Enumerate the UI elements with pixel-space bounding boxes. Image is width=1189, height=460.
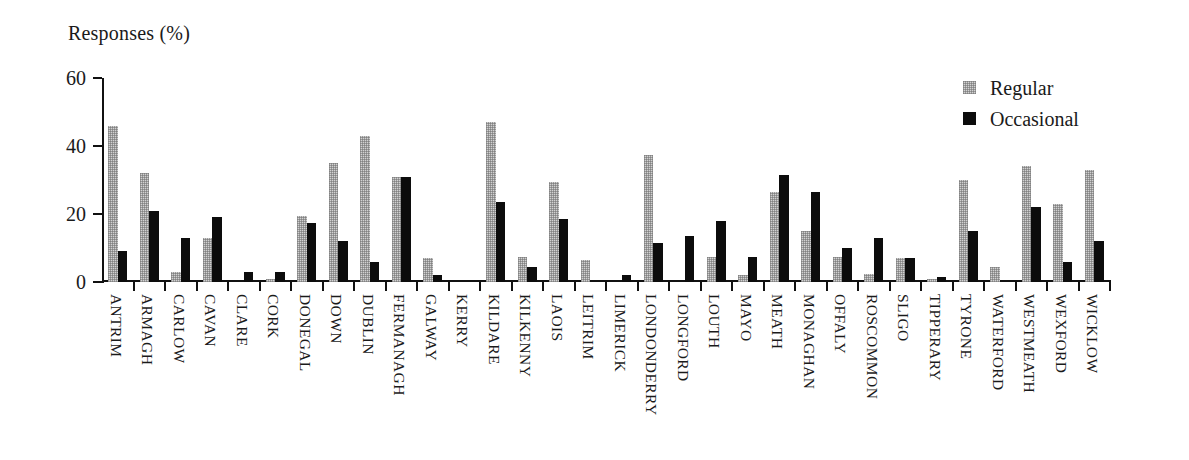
bar-regular[interactable] bbox=[423, 258, 433, 282]
x-axis-label: LOUTH bbox=[707, 294, 723, 349]
bar-occasional[interactable] bbox=[874, 238, 884, 282]
bar-group bbox=[921, 78, 953, 282]
bar-occasional[interactable] bbox=[937, 277, 947, 282]
x-tick bbox=[353, 282, 355, 291]
bar-regular[interactable] bbox=[864, 274, 874, 283]
bar-regular[interactable] bbox=[896, 258, 906, 282]
x-axis-label: WESTMEATH bbox=[1022, 294, 1038, 393]
bar-occasional[interactable] bbox=[496, 202, 506, 282]
bar-occasional[interactable] bbox=[811, 192, 821, 282]
bar-occasional[interactable] bbox=[842, 248, 852, 282]
bar-group bbox=[197, 78, 229, 282]
bar-occasional[interactable] bbox=[307, 223, 317, 283]
bar-occasional[interactable] bbox=[1031, 207, 1041, 282]
bar-regular[interactable] bbox=[738, 275, 748, 282]
x-axis-label: WATERFORD bbox=[990, 294, 1006, 391]
bar-occasional[interactable] bbox=[653, 243, 663, 282]
x-axis-label: LONGFORD bbox=[675, 294, 691, 382]
x-tick bbox=[668, 282, 670, 291]
bar-regular[interactable] bbox=[392, 177, 402, 282]
x-tick bbox=[1109, 282, 1111, 291]
x-tick bbox=[322, 282, 324, 291]
bar-regular[interactable] bbox=[770, 192, 780, 282]
x-axis-label: LEITRIM bbox=[581, 294, 597, 360]
bar-regular[interactable] bbox=[329, 163, 339, 282]
bar-group bbox=[890, 78, 922, 282]
bar-regular[interactable] bbox=[171, 272, 181, 282]
bar-occasional[interactable] bbox=[779, 175, 789, 282]
bar-occasional[interactable] bbox=[181, 238, 191, 282]
bar-group bbox=[606, 78, 638, 282]
bar-regular[interactable] bbox=[833, 257, 843, 283]
legend-label-occasional: Occasional bbox=[990, 109, 1079, 129]
bar-occasional[interactable] bbox=[905, 258, 915, 282]
bar-occasional[interactable] bbox=[118, 251, 128, 282]
x-tick bbox=[952, 282, 954, 291]
bar-regular[interactable] bbox=[108, 126, 118, 282]
bar-regular[interactable] bbox=[1022, 166, 1032, 282]
bar-regular[interactable] bbox=[486, 122, 496, 282]
bar-occasional[interactable] bbox=[275, 272, 285, 282]
bar-occasional[interactable] bbox=[716, 221, 726, 282]
bar-regular[interactable] bbox=[927, 279, 937, 282]
x-tick bbox=[763, 282, 765, 291]
bar-occasional[interactable] bbox=[370, 262, 380, 282]
x-tick bbox=[700, 282, 702, 291]
bar-regular[interactable] bbox=[266, 279, 276, 282]
bar-occasional[interactable] bbox=[149, 211, 159, 282]
bar-regular[interactable] bbox=[360, 136, 370, 282]
bar-occasional[interactable] bbox=[622, 275, 632, 282]
bar-regular[interactable] bbox=[203, 238, 213, 282]
bar-group bbox=[732, 78, 764, 282]
bar-occasional[interactable] bbox=[433, 275, 443, 282]
bar-regular[interactable] bbox=[549, 182, 559, 282]
bar-group bbox=[102, 78, 134, 282]
y-tick: 40 bbox=[93, 145, 102, 147]
x-axis-label: SLIGO bbox=[896, 294, 912, 342]
x-axis-label: LONDONDERRY bbox=[644, 294, 660, 416]
x-axis-label: CAVAN bbox=[203, 294, 219, 347]
x-axis-label: KILDARE bbox=[486, 294, 502, 365]
bar-occasional[interactable] bbox=[968, 231, 978, 282]
x-tick bbox=[133, 282, 135, 291]
bar-regular[interactable] bbox=[518, 257, 528, 283]
bar-occasional[interactable] bbox=[338, 241, 348, 282]
x-axis-label: CORK bbox=[266, 294, 282, 339]
bar-regular[interactable] bbox=[959, 180, 969, 282]
bar-group bbox=[701, 78, 733, 282]
legend-swatch-regular-icon bbox=[963, 81, 976, 94]
x-axis-label: DUBLIN bbox=[360, 294, 376, 355]
bar-occasional[interactable] bbox=[527, 267, 537, 282]
bar-occasional[interactable] bbox=[685, 236, 695, 282]
bar-occasional[interactable] bbox=[1094, 241, 1104, 282]
y-tick-label: 0 bbox=[76, 272, 86, 292]
bar-regular[interactable] bbox=[581, 260, 591, 282]
bar-regular[interactable] bbox=[297, 216, 307, 282]
x-axis-label: TIPPERARY bbox=[927, 294, 943, 381]
bar-regular[interactable] bbox=[801, 231, 811, 282]
bar-regular[interactable] bbox=[1085, 170, 1095, 282]
x-tick bbox=[731, 282, 733, 291]
bar-occasional[interactable] bbox=[401, 177, 411, 282]
bar-occasional[interactable] bbox=[748, 257, 758, 283]
bar-regular[interactable] bbox=[1053, 204, 1063, 282]
legend-item-regular[interactable]: Regular bbox=[963, 72, 1079, 103]
bar-occasional[interactable] bbox=[212, 217, 222, 282]
x-tick bbox=[983, 282, 985, 291]
bar-group bbox=[134, 78, 166, 282]
bar-regular[interactable] bbox=[707, 257, 717, 283]
bar-group bbox=[480, 78, 512, 282]
x-tick bbox=[448, 282, 450, 291]
bar-occasional[interactable] bbox=[559, 219, 569, 282]
bar-occasional[interactable] bbox=[244, 272, 254, 282]
bar-regular[interactable] bbox=[644, 155, 654, 283]
x-tick bbox=[1015, 282, 1017, 291]
x-tick bbox=[605, 282, 607, 291]
legend-item-occasional[interactable]: Occasional bbox=[963, 103, 1079, 134]
x-tick bbox=[889, 282, 891, 291]
bar-regular[interactable] bbox=[140, 173, 150, 282]
bar-group bbox=[354, 78, 386, 282]
bar-occasional[interactable] bbox=[1063, 262, 1073, 282]
x-axis-label: ANTRIM bbox=[108, 294, 124, 358]
bar-regular[interactable] bbox=[990, 267, 1000, 282]
